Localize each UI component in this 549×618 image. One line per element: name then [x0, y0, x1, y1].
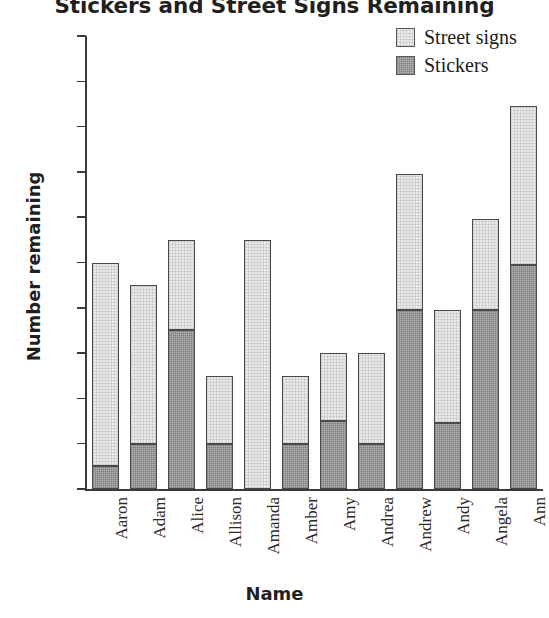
bar-segment-stickers[interactable]	[358, 444, 385, 489]
y-tick-16	[77, 126, 86, 128]
bar-group[interactable]	[244, 240, 271, 489]
legend-swatch-icon	[396, 28, 415, 47]
bar-group[interactable]	[510, 106, 537, 489]
bar-segment-street-signs[interactable]	[396, 174, 423, 310]
y-axis-title: Number remaining	[23, 67, 44, 467]
x-tick-label-andy: Andy	[454, 497, 474, 535]
y-tick-2	[77, 443, 86, 445]
bar-segment-street-signs[interactable]	[510, 106, 537, 265]
bar-segment-stickers[interactable]	[510, 265, 537, 489]
x-tick-label-andrew: Andrew	[416, 497, 436, 552]
bar-group[interactable]	[92, 263, 119, 490]
bar-group[interactable]	[434, 310, 461, 489]
bar-segment-street-signs[interactable]	[320, 353, 347, 421]
bar-segment-stickers[interactable]	[434, 423, 461, 489]
bar-segment-stickers[interactable]	[320, 421, 347, 489]
y-tick-0	[77, 488, 86, 490]
x-tick-label-adam: Adam	[150, 497, 170, 539]
x-tick-label-ann: Ann	[530, 497, 549, 526]
y-tick-4	[77, 398, 86, 400]
chart-title: Stickers and Street Signs Remaining	[0, 0, 549, 18]
bar-group[interactable]	[130, 285, 157, 489]
bar-segment-stickers[interactable]	[130, 444, 157, 489]
stacked-bar-chart: Stickers and Street Signs Remaining 2018…	[0, 0, 549, 618]
legend-item-stickers[interactable]: Stickers	[396, 51, 517, 79]
bar-segment-street-signs[interactable]	[434, 310, 461, 423]
legend-label: Street signs	[424, 26, 517, 49]
x-tick-label-amanda: Amanda	[264, 497, 284, 555]
bar-segment-stickers[interactable]	[92, 466, 119, 489]
y-tick-8	[77, 307, 86, 309]
legend-label: Stickers	[424, 54, 488, 77]
chart-legend: Street signsStickers	[396, 23, 517, 79]
y-tick-20	[77, 35, 86, 37]
y-tick-12	[77, 216, 86, 218]
bar-group[interactable]	[320, 353, 347, 489]
x-tick-label-amber: Amber	[302, 497, 322, 544]
bar-segment-street-signs[interactable]	[282, 376, 309, 444]
x-tick-label-amy: Amy	[340, 497, 360, 531]
y-tick-10	[77, 262, 86, 264]
bar-segment-stickers[interactable]	[472, 310, 499, 489]
y-tick-6	[77, 352, 86, 354]
bar-segment-street-signs[interactable]	[168, 240, 195, 331]
x-tick-label-alice: Alice	[188, 497, 208, 534]
bar-group[interactable]	[206, 376, 233, 489]
bar-segment-stickers[interactable]	[282, 444, 309, 489]
bar-group[interactable]	[168, 240, 195, 489]
bar-group[interactable]	[396, 174, 423, 489]
legend-item-street-signs[interactable]: Street signs	[396, 23, 517, 51]
bar-segment-stickers[interactable]	[396, 310, 423, 489]
y-tick-14	[77, 171, 86, 173]
x-tick-label-allison: Allison	[226, 497, 246, 547]
bar-segment-street-signs[interactable]	[130, 285, 157, 444]
x-axis-line	[85, 489, 543, 491]
bar-segment-street-signs[interactable]	[244, 240, 271, 489]
bar-segment-street-signs[interactable]	[206, 376, 233, 444]
bar-group[interactable]	[282, 376, 309, 489]
bar-segment-street-signs[interactable]	[358, 353, 385, 444]
x-tick-label-angela: Angela	[492, 497, 512, 546]
bar-segment-stickers[interactable]	[168, 330, 195, 489]
bar-group[interactable]	[358, 353, 385, 489]
bar-group[interactable]	[472, 219, 499, 489]
x-tick-label-aaron: Aaron	[112, 497, 132, 539]
x-axis-title: Name	[0, 583, 549, 604]
bar-segment-street-signs[interactable]	[472, 219, 499, 310]
y-tick-18	[77, 81, 86, 83]
x-tick-label-andrea: Andrea	[378, 497, 398, 547]
bar-segment-street-signs[interactable]	[92, 263, 119, 467]
plot-area	[86, 36, 542, 489]
legend-swatch-icon	[396, 56, 415, 75]
bar-segment-stickers[interactable]	[206, 444, 233, 489]
